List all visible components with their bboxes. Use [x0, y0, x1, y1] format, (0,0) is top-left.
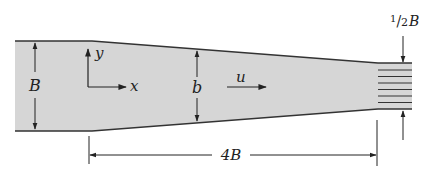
outlet-width-denominator: 2: [401, 16, 408, 29]
y-axis-label: y: [94, 44, 104, 62]
converging-channel-diagram: B y x b u 1/2B: [0, 0, 441, 194]
outlet-width-variable: B: [408, 13, 419, 29]
x-axis-label: x: [130, 77, 139, 95]
local-width-label: b: [192, 78, 202, 97]
diagram-canvas: B y x b u 1/2B: [0, 0, 441, 194]
velocity-label: u: [236, 68, 246, 86]
channel-fluid-region: [15, 41, 412, 131]
inlet-width-label: B: [28, 76, 41, 95]
outlet-width-label: 1/2B: [390, 13, 419, 29]
length-label: 4B: [220, 146, 242, 164]
